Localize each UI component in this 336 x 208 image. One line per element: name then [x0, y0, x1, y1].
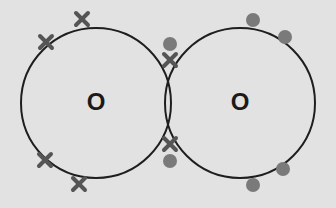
electron-dot-icon	[163, 154, 177, 168]
atom-label-left: O	[87, 88, 106, 115]
electron-cross-icon	[39, 154, 51, 166]
oxygen-molecule-diagram: O O	[0, 0, 336, 208]
electron-dot-icon	[246, 178, 260, 192]
electron-dot-icon	[246, 13, 260, 27]
atom-label-right: O	[231, 88, 250, 115]
electron-cross-icon	[164, 138, 176, 150]
electron-cross-icon	[76, 13, 88, 25]
electron-dot-icon	[163, 37, 177, 51]
electron-dot-icon	[276, 162, 290, 176]
electron-cross-icon	[73, 178, 85, 190]
electron-dot-icon	[278, 30, 292, 44]
electron-cross-icon	[164, 54, 176, 66]
